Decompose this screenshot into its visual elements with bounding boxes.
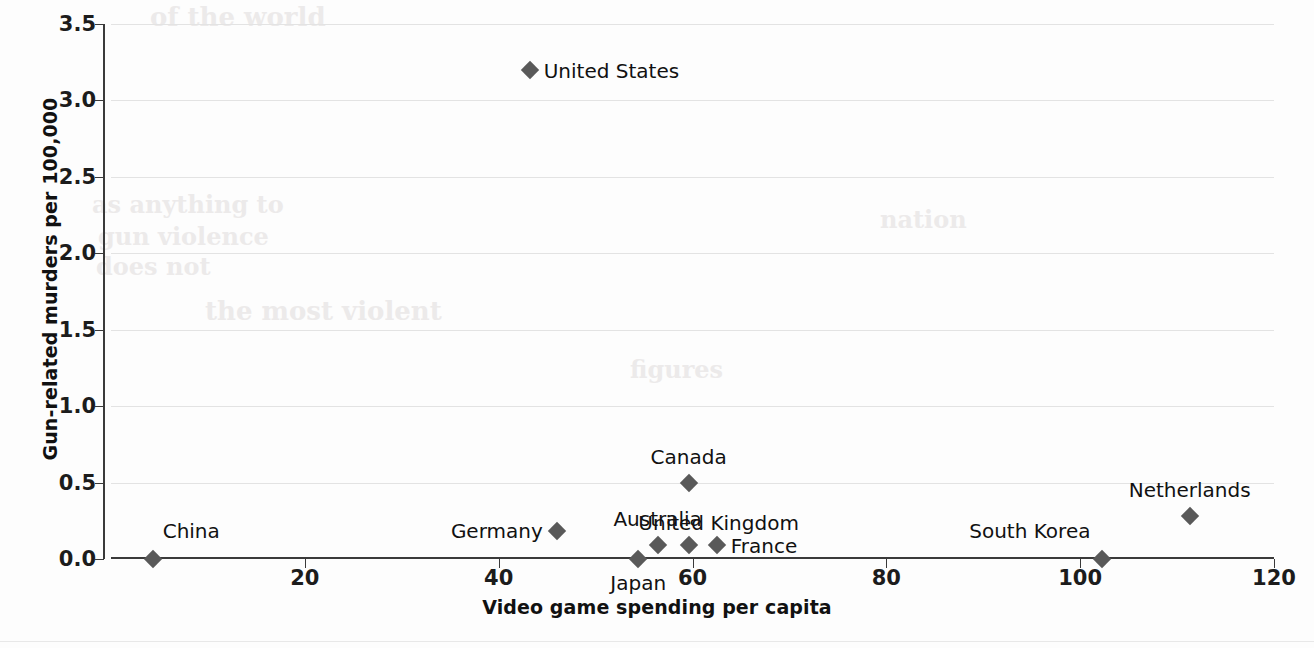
y-axis-tick-label: 0.5 (59, 471, 96, 495)
data-point-label: South Korea (969, 519, 1090, 543)
data-point-marker (708, 536, 726, 554)
gridline-horizontal (111, 330, 1274, 331)
y-axis-tick (95, 406, 104, 407)
gridline-horizontal (111, 406, 1274, 407)
y-axis-tick-label: 1.5 (59, 318, 96, 342)
x-axis-tick-labels: 20406080100120 (111, 566, 1274, 596)
y-axis-tick (95, 483, 104, 484)
plot-area: ChinaJapanSouth KoreaAustraliaUnited Kin… (111, 24, 1274, 559)
x-axis-tick-label: 80 (872, 566, 901, 590)
page-bottom-rule (0, 641, 1314, 642)
data-point-marker (648, 536, 666, 554)
x-axis-tick-label: 60 (678, 566, 707, 590)
x-axis-tick-label: 120 (1252, 566, 1296, 590)
y-axis-tick-label: 3.5 (59, 12, 96, 36)
x-axis-tick-label: 20 (290, 566, 319, 590)
y-axis-tick-label: 1.0 (59, 394, 96, 418)
y-axis-tick-label: 2.0 (59, 241, 96, 265)
y-axis-tick-label: 3.0 (59, 88, 96, 112)
data-point-label: United Kingdom (638, 511, 799, 535)
y-axis-tick-label: 2.5 (59, 165, 96, 189)
data-point-label: Germany (451, 519, 543, 543)
x-axis-title: Video game spending per capita (0, 596, 1314, 618)
gridline-horizontal (111, 24, 1274, 25)
x-axis-tick-label: 100 (1058, 566, 1102, 590)
gridline-horizontal (111, 253, 1274, 254)
y-axis-tick (95, 177, 104, 178)
y-axis-tick (95, 100, 104, 101)
data-point-marker (520, 61, 538, 79)
y-axis-tick (95, 24, 104, 25)
y-axis-tick-label: 0.0 (59, 547, 96, 571)
x-axis-tick-label: 40 (484, 566, 513, 590)
data-point-marker (1180, 507, 1198, 525)
data-point-label: United States (544, 59, 679, 83)
y-axis-tick (95, 330, 104, 331)
gridline-horizontal (111, 177, 1274, 178)
data-point-label: France (731, 534, 798, 558)
gridline-horizontal (111, 100, 1274, 101)
data-point-label: China (163, 519, 220, 543)
y-axis-title: Gun-related murders per 100,000 (39, 19, 61, 539)
data-point-label: Netherlands (1129, 478, 1251, 502)
y-axis-tick (95, 253, 104, 254)
chart-page: of the world as anything to gun violence… (0, 0, 1314, 648)
data-point-marker (548, 522, 566, 540)
data-point-marker (679, 473, 697, 491)
y-axis-line (103, 24, 105, 559)
data-point-marker (679, 536, 697, 554)
y-axis-tick (95, 559, 104, 560)
data-point-label: Canada (651, 445, 727, 469)
